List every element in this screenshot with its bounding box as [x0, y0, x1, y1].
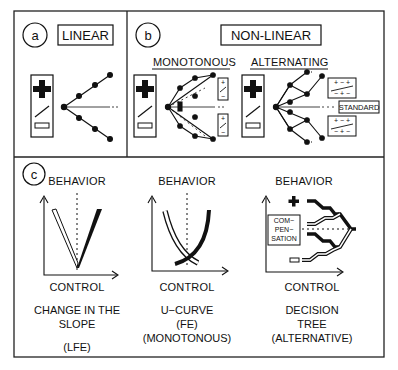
svg-text:CHANGE IN THE: CHANGE IN THE: [34, 304, 120, 316]
svg-text:COM−: COM−: [274, 217, 294, 224]
svg-text:+ − +: + − +: [334, 79, 350, 86]
svg-text:(MONOTONOUS): (MONOTONOUS): [143, 332, 231, 344]
minus-icon: [290, 258, 299, 262]
svg-text:+: +: [221, 79, 225, 86]
panel-b-nonlinear: b NON-LINEAR MONOTONOUS ALTERNATING: [134, 23, 380, 144]
monotonous-fan: [165, 73, 226, 142]
control-box: [31, 75, 53, 137]
graph-decision-tree: BEHAVIOR COM− PEN− SATION CONTROL DECISI…: [262, 175, 356, 344]
svg-text:BEHAVIOR: BEHAVIOR: [158, 175, 216, 187]
svg-text:SLOPE: SLOPE: [59, 318, 96, 330]
panel-letter: a: [31, 28, 39, 43]
panel-c: c BEHAVIOR CONTROL CHANGE IN THE SLOPE (…: [23, 163, 356, 353]
svg-text:−: −: [221, 93, 225, 100]
compensation-box: COM− PEN− SATION: [268, 215, 300, 245]
graph-u-curve: BEHAVIOR CONTROL U−CURVE (FE) (MONOTONOU…: [143, 175, 231, 344]
panel-title: LINEAR: [62, 28, 109, 43]
svg-text:(ALTERNATIVE): (ALTERNATIVE): [272, 332, 353, 344]
svg-text:PEN−: PEN−: [275, 226, 293, 233]
svg-text:U−CURVE: U−CURVE: [161, 304, 214, 316]
svg-text:(LFE): (LFE): [63, 341, 91, 353]
plus-icon: [289, 196, 300, 207]
subtitle-alternating: ALTERNATING: [251, 56, 329, 68]
svg-text:+: +: [221, 115, 225, 122]
svg-text:TREE: TREE: [297, 318, 326, 330]
svg-text:DECISION: DECISION: [285, 304, 338, 316]
mono-mini-box-upper: + −: [218, 78, 228, 100]
mono-mini-box-lower: + −: [218, 114, 228, 136]
panel-letter: b: [144, 28, 151, 43]
svg-text:(FE): (FE): [176, 318, 197, 330]
svg-text:CONTROL: CONTROL: [159, 281, 214, 293]
svg-text:− + −: − + −: [334, 128, 350, 135]
alt-mini-box-lower: + − + − + −: [328, 116, 356, 136]
alt-mini-box-upper: + − + − + −: [328, 78, 356, 98]
svg-text:STANDARD: STANDARD: [339, 103, 380, 112]
alternating-fan: [273, 70, 334, 145]
svg-text:BEHAVIOR: BEHAVIOR: [48, 175, 106, 187]
control-box: [242, 75, 264, 137]
svg-text:SATION: SATION: [271, 235, 297, 242]
svg-text:− + −: − + −: [334, 90, 350, 97]
figure-diagram: a LINEAR b NON-LINEAR MONOTONOUS ALTERNA…: [0, 0, 398, 370]
panel-title: NON-LINEAR: [231, 28, 311, 43]
svg-text:BEHAVIOR: BEHAVIOR: [275, 175, 333, 187]
svg-text:CONTROL: CONTROL: [49, 281, 104, 293]
control-box: [134, 75, 156, 137]
subtitle-monotonous: MONOTONOUS: [153, 56, 236, 68]
linear-fan: [61, 73, 118, 142]
svg-text:CONTROL: CONTROL: [284, 281, 339, 293]
graph-change-in-slope: BEHAVIOR CONTROL CHANGE IN THE SLOPE (LF…: [34, 175, 120, 353]
svg-text:−: −: [221, 129, 225, 136]
panel-a-linear: a LINEAR: [23, 23, 118, 141]
standard-label-box: STANDARD: [339, 101, 380, 113]
svg-text:+ − +: + − +: [334, 117, 350, 124]
panel-letter: c: [31, 167, 38, 182]
